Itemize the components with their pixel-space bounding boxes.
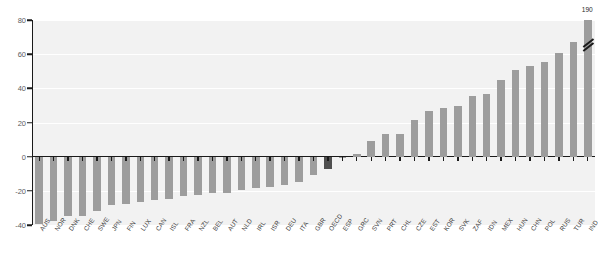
bars-layer: 190 — [32, 20, 595, 225]
y-tick-label: 20 — [18, 118, 26, 127]
x-tick-mark — [529, 157, 530, 161]
x-tick-mark — [183, 157, 184, 161]
x-tick-mark — [443, 157, 444, 161]
bar-chl[interactable] — [396, 134, 404, 157]
y-tick-label: 0 — [22, 152, 26, 161]
bar-aus[interactable] — [35, 157, 43, 224]
bar-tur[interactable] — [570, 42, 578, 156]
x-tick-mark — [255, 157, 256, 161]
bar-irl[interactable] — [252, 157, 260, 189]
x-tick-mark — [241, 157, 242, 161]
bar-rus[interactable] — [555, 53, 563, 156]
x-tick-mark — [197, 157, 198, 161]
x-tick-mark — [472, 157, 473, 161]
x-tick-mark — [96, 157, 97, 161]
x-tick-mark — [154, 157, 155, 161]
x-tick-mark — [67, 157, 68, 161]
y-tick-label: 80 — [18, 16, 26, 25]
x-tick-mark — [39, 157, 40, 161]
bar-value-annotation: 190 — [582, 6, 593, 13]
x-tick-mark — [371, 157, 372, 161]
x-tick-mark — [414, 157, 415, 161]
x-tick-mark — [587, 157, 588, 161]
bar-jpn[interactable] — [108, 157, 116, 206]
bar-pol[interactable] — [541, 62, 549, 157]
bar-est[interactable] — [425, 111, 433, 157]
x-tick-mark — [573, 157, 574, 161]
x-tick-mark — [385, 157, 386, 161]
bar-che[interactable] — [79, 157, 87, 216]
bar-chart: 806040200-20-40 190 AUSNORDNKCHESWEJPNFI… — [0, 0, 599, 269]
x-tick-mark — [53, 157, 54, 161]
y-tick-label: -40 — [15, 221, 26, 230]
x-tick-mark — [140, 157, 141, 161]
x-tick-mark — [342, 157, 343, 161]
x-tick-mark — [269, 157, 270, 161]
bar-mex[interactable] — [497, 80, 505, 157]
bar-fra[interactable] — [180, 157, 188, 196]
chart-title — [0, 0, 599, 2]
bar-kor[interactable] — [440, 108, 448, 157]
x-tick-mark — [428, 157, 429, 161]
x-tick-mark — [327, 157, 328, 161]
bar-bel[interactable] — [209, 157, 217, 194]
x-tick-mark — [168, 157, 169, 161]
x-tick-mark — [125, 157, 126, 161]
bar-svk[interactable] — [454, 106, 462, 156]
y-tick-label: -20 — [15, 186, 26, 195]
x-tick-mark — [558, 157, 559, 161]
x-tick-mark — [212, 157, 213, 161]
x-tick-mark — [82, 157, 83, 161]
x-tick-mark — [399, 157, 400, 161]
x-tick-mark — [356, 157, 357, 161]
bar-chn[interactable] — [526, 66, 534, 157]
x-tick-mark — [500, 157, 501, 161]
y-tick-label: 60 — [18, 50, 26, 59]
bar-nld[interactable] — [238, 157, 246, 190]
bar-cze[interactable] — [411, 120, 419, 157]
bar-zaf[interactable] — [469, 96, 477, 157]
bar-svn[interactable] — [367, 141, 375, 156]
bar-grc[interactable] — [353, 154, 361, 157]
x-tick-mark — [515, 157, 516, 161]
bar-nzl[interactable] — [194, 157, 202, 195]
x-tick-mark — [284, 157, 285, 161]
x-tick-mark — [313, 157, 314, 161]
x-tick-mark — [111, 157, 112, 161]
bar-idn[interactable] — [483, 94, 491, 156]
bar-hun[interactable] — [512, 70, 520, 156]
bar-isl[interactable] — [165, 157, 173, 199]
bar-lux[interactable] — [137, 157, 145, 202]
bar-can[interactable] — [151, 157, 159, 201]
x-axis-labels: AUSNORDNKCHESWEJPNFINLUXCANISLFRANZLBELA… — [32, 225, 595, 269]
bar-swe[interactable] — [93, 157, 101, 212]
x-tick-mark — [298, 157, 299, 161]
y-tick-label: 40 — [18, 84, 26, 93]
bar-fin[interactable] — [122, 157, 130, 204]
y-axis: 806040200-20-40 — [0, 0, 32, 269]
bar-nor[interactable] — [50, 157, 58, 221]
bar-dnk[interactable] — [64, 157, 72, 217]
x-tick-mark — [457, 157, 458, 161]
x-tick-mark — [544, 157, 545, 161]
x-tick-mark — [486, 157, 487, 161]
bar-aut[interactable] — [223, 157, 231, 193]
x-tick-mark — [226, 157, 227, 161]
bar-prt[interactable] — [382, 134, 390, 156]
